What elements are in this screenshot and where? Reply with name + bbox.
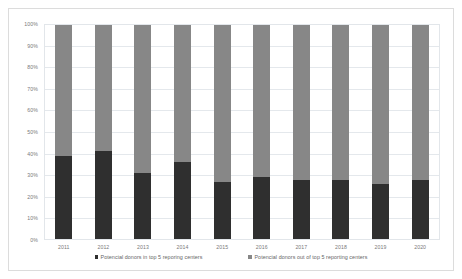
bar-segment-in-top5[interactable] xyxy=(214,182,231,240)
bar-slot xyxy=(321,24,361,240)
legend-item-in-top5[interactable]: Potencial donors in top 5 reporing cente… xyxy=(95,254,203,260)
bar-slot xyxy=(163,24,203,240)
bar-segment-in-top5[interactable] xyxy=(372,184,389,240)
bar-segment-in-top5[interactable] xyxy=(174,162,191,240)
bar-segment-in-top5[interactable] xyxy=(293,180,310,240)
bar-segment-in-top5[interactable] xyxy=(253,177,270,240)
bar-segment-out-top5[interactable] xyxy=(95,24,112,151)
x-tick-label: 2011 xyxy=(44,241,84,255)
x-tick-label: 2015 xyxy=(202,241,242,255)
bar-group xyxy=(44,24,440,240)
y-axis: 100% 90% 80% 70% 60% 50% 40% 30% 20% 10%… xyxy=(8,24,42,240)
stacked-bar[interactable] xyxy=(332,24,349,240)
bar-slot xyxy=(400,24,440,240)
bar-segment-out-top5[interactable] xyxy=(253,24,270,177)
bar-segment-in-top5[interactable] xyxy=(55,156,72,240)
bar-slot xyxy=(44,24,84,240)
bar-segment-out-top5[interactable] xyxy=(174,24,191,162)
bar-segment-out-top5[interactable] xyxy=(332,24,349,180)
bar-segment-in-top5[interactable] xyxy=(332,180,349,240)
y-tick-label: 70% xyxy=(27,86,38,92)
bar-slot xyxy=(123,24,163,240)
bar-slot xyxy=(84,24,124,240)
bar-segment-out-top5[interactable] xyxy=(214,24,231,182)
y-tick-label: 10% xyxy=(27,215,38,221)
y-tick-label: 90% xyxy=(27,43,38,49)
legend-item-label: Potencial donors out of top 5 reporting … xyxy=(254,254,367,260)
x-tick-label: 2019 xyxy=(361,241,401,255)
bar-segment-out-top5[interactable] xyxy=(293,24,310,180)
legend-item-out-top5[interactable]: Potencial donors out of top 5 reporting … xyxy=(248,254,367,260)
bar-slot xyxy=(242,24,282,240)
x-tick-label: 2018 xyxy=(321,241,361,255)
stacked-bar[interactable] xyxy=(253,24,270,240)
x-tick-label: 2020 xyxy=(400,241,440,255)
y-tick-label: 30% xyxy=(27,172,38,178)
bar-segment-out-top5[interactable] xyxy=(55,24,72,156)
bar-segment-in-top5[interactable] xyxy=(134,173,151,240)
chart-legend: Potencial donors in top 5 reporing cente… xyxy=(0,254,462,260)
bar-segment-out-top5[interactable] xyxy=(412,24,429,180)
bar-slot xyxy=(361,24,401,240)
stacked-bar[interactable] xyxy=(95,24,112,240)
stacked-bar[interactable] xyxy=(372,24,389,240)
stacked-bar[interactable] xyxy=(174,24,191,240)
bar-slot xyxy=(282,24,322,240)
x-axis: 2011 2012 2013 2014 2015 2016 2017 2018 … xyxy=(44,241,440,255)
bar-segment-out-top5[interactable] xyxy=(134,24,151,173)
y-tick-label: 0% xyxy=(30,237,38,243)
legend-item-label: Potencial donors in top 5 reporing cente… xyxy=(101,254,203,260)
stacked-bar[interactable] xyxy=(293,24,310,240)
x-tick-label: 2016 xyxy=(242,241,282,255)
y-tick-label: 60% xyxy=(27,107,38,113)
bar-slot xyxy=(202,24,242,240)
x-tick-label: 2013 xyxy=(123,241,163,255)
bar-segment-out-top5[interactable] xyxy=(372,24,389,184)
bar-segment-in-top5[interactable] xyxy=(412,180,429,240)
y-tick-label: 20% xyxy=(27,194,38,200)
plot-area xyxy=(44,24,440,240)
y-tick-label: 40% xyxy=(27,151,38,157)
y-tick-label: 80% xyxy=(27,64,38,70)
stacked-bar[interactable] xyxy=(55,24,72,240)
y-tick-label: 50% xyxy=(27,129,38,135)
stacked-bar[interactable] xyxy=(412,24,429,240)
x-tick-label: 2017 xyxy=(282,241,322,255)
stacked-bar[interactable] xyxy=(134,24,151,240)
bar-segment-in-top5[interactable] xyxy=(95,151,112,240)
legend-swatch-icon xyxy=(248,255,252,259)
y-tick-label: 100% xyxy=(24,21,38,27)
x-tick-label: 2014 xyxy=(163,241,203,255)
x-tick-label: 2012 xyxy=(84,241,124,255)
stacked-bar[interactable] xyxy=(214,24,231,240)
stacked-bar-chart: 100% 90% 80% 70% 60% 50% 40% 30% 20% 10%… xyxy=(0,0,462,279)
legend-swatch-icon xyxy=(95,255,99,259)
